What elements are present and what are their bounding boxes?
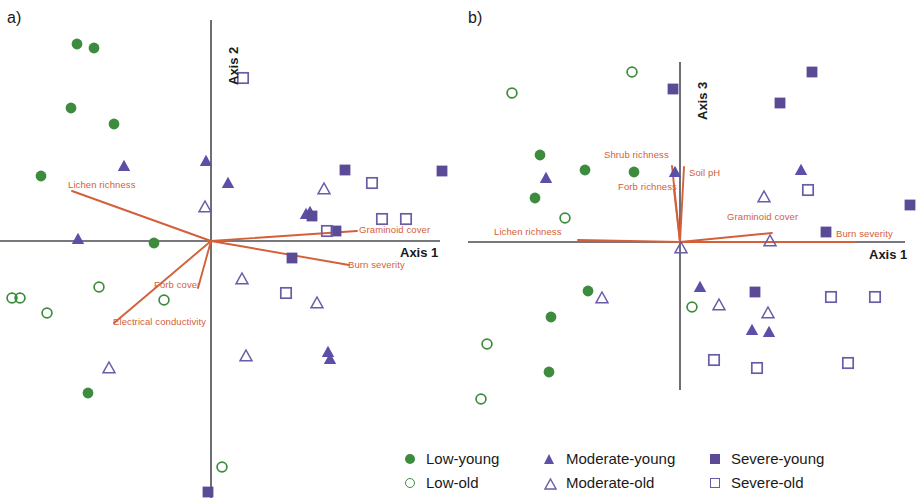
point-low-young: [83, 388, 94, 399]
point-low-young: [544, 367, 555, 378]
point-low-young: [89, 43, 100, 54]
point-low-young: [535, 150, 546, 161]
point-severe-young: [203, 487, 214, 498]
panel-b-y-axis-label: Axis 3: [695, 82, 710, 120]
point-moderate-old: [199, 201, 211, 212]
point-severe-old: [377, 214, 387, 224]
legend-label-severe-young: Severe-young: [731, 450, 824, 467]
point-severe-young: [437, 166, 448, 177]
point-low-old: [217, 462, 227, 472]
vector-line-forb-richness-panel-b: [674, 190, 680, 242]
point-low-old: [482, 339, 492, 349]
point-severe-young: [821, 227, 832, 238]
vector-label-electrical-conductivity-a: Electrical conductivity: [113, 316, 206, 327]
point-severe-old: [752, 363, 762, 373]
point-moderate-old: [596, 292, 608, 303]
vector-line-lichen-richness-panel-a: [72, 191, 211, 241]
point-severe-old: [401, 214, 411, 224]
point-moderate-young: [222, 177, 234, 188]
point-low-young: [530, 193, 541, 204]
point-low-young: [109, 119, 120, 130]
filled-circle-icon: [404, 452, 417, 465]
legend-item-severe-old: Severe-old: [709, 474, 804, 491]
point-severe-young: [307, 211, 318, 222]
point-moderate-old: [240, 350, 252, 361]
legend-label-low-old: Low-old: [426, 474, 479, 491]
legend-item-moderate-old: Moderate-old: [544, 474, 654, 491]
data-points-layer: [7, 39, 915, 498]
panel-b-x-axis-label: Axis 1: [869, 247, 907, 262]
point-moderate-old: [103, 362, 115, 373]
legend-item-moderate-young: Moderate-young: [544, 450, 675, 467]
environmental-vectors-layer: [72, 166, 855, 323]
vector-label-burn-severity-a: Burn severity: [348, 259, 405, 270]
vector-label-forb-cover-a: Forb cover: [154, 279, 200, 290]
open-circle-icon: [404, 476, 417, 489]
point-low-young: [583, 286, 594, 297]
vector-label-soil-ph-b: Soil pH: [689, 167, 720, 178]
point-severe-old: [709, 355, 719, 365]
point-low-old: [687, 302, 697, 312]
vector-label-graminoid-cover-b: Graminoid cover: [727, 211, 798, 222]
vector-label-forb-richness-b: Forb richness: [618, 181, 677, 192]
point-moderate-old: [713, 299, 725, 310]
point-moderate-young: [322, 346, 334, 357]
point-low-old: [94, 282, 104, 292]
point-severe-young: [340, 165, 351, 176]
point-severe-old: [870, 292, 880, 302]
point-severe-young: [775, 98, 786, 109]
point-moderate-old: [318, 183, 330, 194]
panel-a-y-axis-label: Axis 2: [226, 47, 241, 85]
ordination-plot-svg: [0, 0, 917, 498]
point-moderate-young: [118, 160, 130, 171]
point-moderate-old: [764, 235, 776, 246]
vector-label-shrub-richness-b: Shrub richness: [604, 149, 669, 160]
filled-square-icon: [709, 452, 722, 465]
point-moderate-young: [540, 172, 552, 183]
point-low-young: [546, 312, 557, 323]
point-severe-young: [905, 200, 916, 211]
point-low-old: [42, 308, 52, 318]
vector-label-graminoid-cover-a: Graminoid cover: [359, 224, 430, 235]
point-severe-old: [367, 178, 377, 188]
point-severe-young: [668, 84, 679, 95]
point-moderate-old: [236, 273, 248, 284]
point-low-old: [627, 67, 637, 77]
point-low-young: [36, 171, 47, 182]
legend-label-severe-old: Severe-old: [731, 474, 804, 491]
point-moderate-old: [311, 297, 323, 308]
point-low-old: [507, 88, 517, 98]
point-severe-young: [287, 253, 298, 264]
open-triangle-icon: [544, 476, 557, 489]
filled-triangle-icon: [544, 452, 557, 465]
legend-label-moderate-young: Moderate-young: [566, 450, 675, 467]
point-moderate-old: [758, 191, 770, 202]
legend-item-low-old: Low-old: [404, 474, 479, 491]
point-severe-old: [826, 292, 836, 302]
vector-line-burn-severity-panel-a: [211, 241, 349, 265]
panel-a-x-axis-label: Axis 1: [400, 245, 438, 260]
point-low-young: [580, 165, 591, 176]
point-moderate-young: [746, 324, 758, 335]
point-severe-old: [843, 358, 853, 368]
point-severe-old: [281, 288, 291, 298]
legend-label-low-young: Low-young: [426, 450, 499, 467]
point-moderate-old: [675, 242, 687, 253]
point-low-young: [149, 238, 160, 249]
legend-item-severe-young: Severe-young: [709, 450, 824, 467]
point-low-young: [66, 103, 77, 114]
legend-item-low-young: Low-young: [404, 450, 499, 467]
point-low-old: [159, 295, 169, 305]
vector-label-lichen-richness-a: Lichen richness: [68, 179, 136, 190]
point-moderate-young: [763, 326, 775, 337]
figure-container: a) b) Axis 2 Axis 1 Axis 3 Axis 1 Lichen…: [0, 0, 917, 498]
vector-line-graminoid-cover-panel-b: [680, 233, 772, 242]
point-moderate-old: [762, 307, 774, 318]
point-severe-young: [807, 67, 818, 78]
legend: Low-young Low-old Moderate-young Moderat…: [404, 450, 864, 496]
point-moderate-young: [694, 281, 706, 292]
point-low-old: [560, 213, 570, 223]
legend-label-moderate-old: Moderate-old: [566, 474, 654, 491]
open-square-icon: [709, 476, 722, 489]
point-moderate-young: [72, 233, 84, 244]
